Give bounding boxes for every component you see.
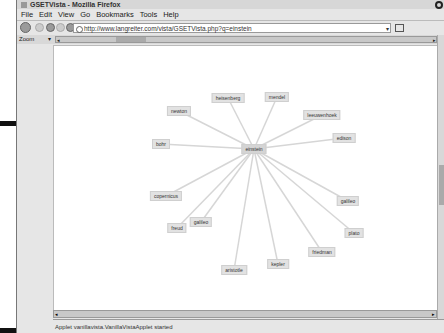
arrow-right-icon[interactable]: ▸: [432, 311, 435, 317]
graph-node-kepler[interactable]: kepler: [267, 259, 289, 269]
graph-node-edison[interactable]: edison: [333, 133, 356, 143]
graph-node-copernicus[interactable]: copernicus: [150, 191, 182, 201]
status-text: Applet vanillavista.VanillaVistaApplet s…: [55, 324, 173, 330]
reload-button[interactable]: [46, 23, 55, 32]
forward-button[interactable]: [35, 23, 44, 32]
url-input[interactable]: http://www.langreiter.com/vista/GSETVist…: [73, 23, 391, 33]
back-button[interactable]: [20, 22, 31, 33]
menu-edit[interactable]: Edit: [39, 10, 52, 19]
vertical-scrollbar[interactable]: [437, 35, 444, 319]
zoom-select[interactable]: Zoom ▾: [19, 35, 53, 44]
horizontal-scrollbar[interactable]: ◂ ▸: [53, 310, 437, 318]
graph-node-freud[interactable]: freud: [167, 223, 186, 233]
graph-node-bohr[interactable]: bohr: [152, 139, 170, 149]
browser-window: GSETVista - Mozilla Firefox FileEditView…: [16, 0, 444, 333]
graph-node-galileo[interactable]: galileo: [337, 196, 359, 206]
graph-node-einstein[interactable]: einstein: [241, 144, 266, 154]
graph-node-galileo[interactable]: galileo: [190, 217, 212, 227]
menu-bar: FileEditViewGoBookmarksToolsHelp: [17, 9, 444, 20]
menu-go[interactable]: Go: [80, 10, 90, 19]
stop-button[interactable]: [56, 23, 65, 32]
arrow-left-icon[interactable]: ◂: [57, 36, 60, 45]
applet-toolbar: Zoom ▾ ◂ ▸: [17, 35, 444, 44]
menu-file[interactable]: File: [21, 10, 33, 19]
graph-node-plato[interactable]: plato: [345, 228, 364, 238]
graph-node-mendel[interactable]: mendel: [265, 92, 289, 102]
go-button[interactable]: [395, 24, 404, 32]
chevron-down-icon[interactable]: ▾: [386, 24, 389, 34]
slider-thumb[interactable]: [116, 37, 146, 42]
throbber-icon: [435, 1, 443, 9]
zoom-label: Zoom: [19, 36, 34, 42]
arrow-left-icon[interactable]: ◂: [55, 311, 58, 317]
menu-bookmarks[interactable]: Bookmarks: [96, 10, 134, 19]
graph-canvas[interactable]: heisenbergmendelleeuwenhoeknewtonbohredi…: [53, 45, 439, 311]
graph-node-heisenberg[interactable]: heisenberg: [212, 93, 245, 103]
menu-view[interactable]: View: [58, 10, 74, 19]
url-text: http://www.langreiter.com/vista/GSETVist…: [84, 25, 252, 32]
title-bar: GSETVista - Mozilla Firefox: [17, 0, 444, 9]
menu-tools[interactable]: Tools: [140, 10, 158, 19]
site-icon: [76, 26, 83, 33]
window-title: GSETVista - Mozilla Firefox: [30, 1, 121, 8]
menu-help[interactable]: Help: [163, 10, 178, 19]
graph-node-friedman[interactable]: friedman: [308, 247, 335, 257]
status-bar: Applet vanillavista.VanillaVistaApplet s…: [53, 319, 444, 333]
graph-node-newton[interactable]: newton: [167, 106, 191, 116]
arrow-right-icon[interactable]: ▸: [433, 36, 436, 45]
scrollbar-thumb[interactable]: [439, 165, 444, 205]
graph-node-aristotle[interactable]: aristotle: [221, 265, 247, 275]
graph-node-leeuwenhoek[interactable]: leeuwenhoek: [303, 110, 340, 120]
navigation-toolbar: http://www.langreiter.com/vista/GSETVist…: [17, 20, 444, 36]
chevron-down-icon: ▾: [48, 35, 51, 44]
firefox-icon: [21, 2, 27, 8]
zoom-slider[interactable]: ◂ ▸: [55, 36, 437, 43]
